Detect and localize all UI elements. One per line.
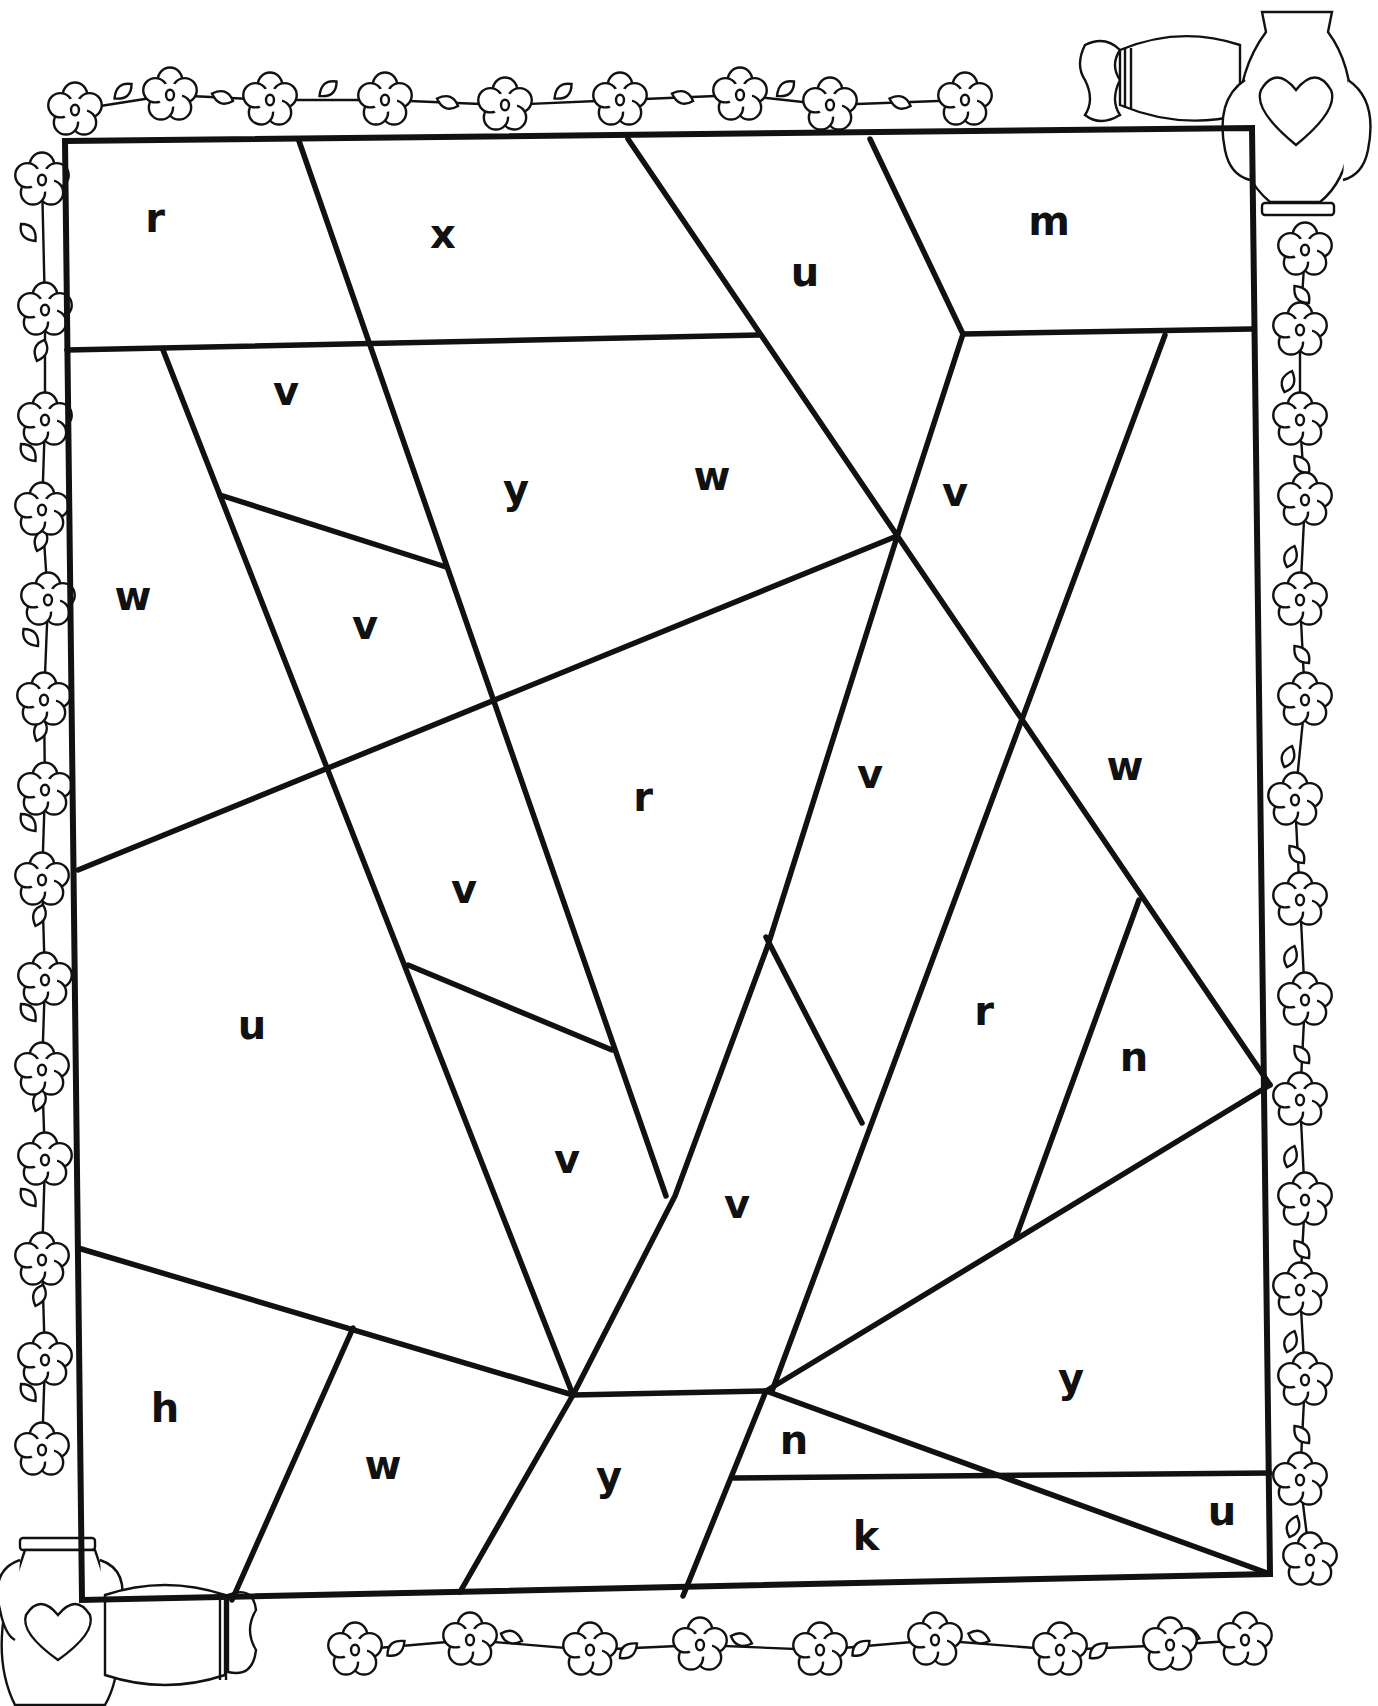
divider-line xyxy=(299,141,666,1196)
divider-line xyxy=(408,965,612,1050)
vase-bottom-left-icon xyxy=(0,1538,256,1705)
divider-line xyxy=(460,1395,573,1592)
leaf-icon xyxy=(1280,944,1302,969)
flower-icon xyxy=(143,68,196,120)
flower-icon xyxy=(1033,1623,1086,1675)
floral-border xyxy=(15,68,1336,1675)
leaf-icon xyxy=(1277,369,1299,394)
flower-icon xyxy=(18,763,71,815)
region-letter[interactable]: h xyxy=(151,1385,179,1431)
flower-icon xyxy=(15,153,68,205)
leaf-icon xyxy=(435,91,460,113)
leaf-icon xyxy=(1280,1329,1302,1354)
flower-icon xyxy=(1278,473,1331,525)
flower-icon xyxy=(15,483,68,535)
divider-line xyxy=(766,1085,1270,1391)
flower-icon xyxy=(18,393,71,445)
divider-line xyxy=(573,1391,766,1395)
region-letter[interactable]: k xyxy=(853,1513,881,1559)
leaf-icon xyxy=(616,1640,641,1662)
divider-line xyxy=(67,335,759,350)
flower-icon xyxy=(1283,1533,1336,1585)
flower-icon xyxy=(15,1043,68,1095)
flower-icon xyxy=(1268,773,1321,825)
leaf-icon xyxy=(30,338,52,363)
flower-icon xyxy=(1278,673,1331,725)
flower-icon xyxy=(48,83,101,135)
flower-icon xyxy=(15,853,68,905)
divider-line xyxy=(963,329,1252,334)
flower-icon xyxy=(328,1623,381,1675)
leaf-icon xyxy=(887,91,912,113)
divider-line xyxy=(766,937,862,1123)
flower-icon xyxy=(478,78,531,130)
flower-icon xyxy=(18,1133,71,1185)
flower-icon xyxy=(1273,1453,1326,1505)
region-letter[interactable]: v xyxy=(352,602,378,648)
flower-icon xyxy=(1143,1618,1196,1670)
leaf-icon xyxy=(17,220,39,245)
region-letter[interactable]: r xyxy=(633,774,653,820)
flower-icon xyxy=(1273,1263,1326,1315)
flower-icon xyxy=(18,1333,71,1385)
flower-icon xyxy=(1278,1353,1331,1405)
flower-icon xyxy=(243,73,296,125)
flower-icon xyxy=(1273,573,1326,625)
flower-icon xyxy=(21,573,74,625)
flower-icon xyxy=(358,73,411,125)
region-letter[interactable]: m xyxy=(1028,198,1070,244)
leaf-icon xyxy=(17,1185,39,1210)
leaf-icon xyxy=(210,86,235,108)
region-letter[interactable]: u xyxy=(1208,1488,1236,1534)
divider-line xyxy=(573,334,963,1395)
region-letter[interactable]: v xyxy=(451,866,477,912)
flower-icon xyxy=(1273,393,1326,445)
region-letter[interactable]: v xyxy=(554,1136,580,1182)
region-letter[interactable]: w xyxy=(115,573,152,619)
region-letter[interactable]: v xyxy=(724,1181,750,1227)
region-letter[interactable]: y xyxy=(1058,1355,1084,1401)
region-letter[interactable]: r xyxy=(974,988,994,1034)
region-letter[interactable]: v xyxy=(942,469,968,515)
region-letters: rxumvywvwvrvwvurnvvyhwynku xyxy=(115,195,1237,1559)
leaf-icon xyxy=(28,1283,50,1308)
divider-line xyxy=(78,1248,573,1395)
leaf-icon xyxy=(550,80,575,102)
flower-icon xyxy=(17,673,70,725)
worksheet-canvas: rxumvywvwvrvwvurnvvyhwynku xyxy=(0,0,1378,1706)
flower-icon xyxy=(938,73,991,125)
flower-icon xyxy=(908,1613,961,1665)
flower-icon xyxy=(713,68,766,120)
leaf-icon xyxy=(110,80,135,102)
flower-icon xyxy=(1273,1073,1326,1125)
flower-icon xyxy=(1273,303,1326,355)
leaf-icon xyxy=(1086,1640,1111,1662)
divider-line xyxy=(628,139,1270,1085)
region-letter[interactable]: v xyxy=(273,368,299,414)
leaf-icon xyxy=(1280,1144,1302,1169)
divider-line xyxy=(220,495,446,567)
region-letter[interactable]: w xyxy=(1107,743,1144,789)
region-letter[interactable]: v xyxy=(857,751,883,797)
divider-line xyxy=(734,1473,1270,1478)
divider-line xyxy=(232,1328,353,1600)
region-letter[interactable]: w xyxy=(365,1442,402,1488)
region-letter[interactable]: w xyxy=(694,453,731,499)
flower-icon xyxy=(1278,973,1331,1025)
flower-icon xyxy=(15,1423,68,1475)
region-letter[interactable]: u xyxy=(238,1002,266,1048)
region-letter[interactable]: u xyxy=(791,249,819,295)
flower-icon xyxy=(563,1623,616,1675)
region-letter[interactable]: y xyxy=(503,466,529,512)
flower-icon xyxy=(18,953,71,1005)
region-letter[interactable]: n xyxy=(780,1417,808,1463)
leaf-icon xyxy=(1280,544,1302,569)
region-letter[interactable]: n xyxy=(1120,1034,1148,1080)
region-dividers xyxy=(67,139,1270,1600)
region-letter[interactable]: x xyxy=(430,211,456,257)
divider-line xyxy=(766,1391,1270,1574)
region-letter[interactable]: r xyxy=(145,195,165,241)
region-letter[interactable]: y xyxy=(596,1453,622,1499)
leaf-icon xyxy=(670,86,695,108)
flower-icon xyxy=(443,1613,496,1665)
